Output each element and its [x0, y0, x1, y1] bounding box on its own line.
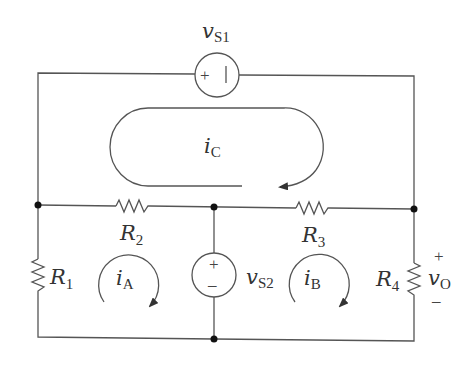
resistor-r3-label: R3 — [301, 223, 325, 250]
resistor-r1-icon — [32, 259, 44, 294]
node-top-center — [211, 204, 218, 211]
ib-label: iB — [304, 266, 321, 292]
ic-arrow-icon — [280, 170, 316, 187]
node-top-left — [35, 202, 42, 209]
circuit-diagram: + vS1 iC R2 R3 R1 iA — [0, 0, 476, 365]
mesh-current-ia: iA — [99, 255, 159, 306]
vo-label: vO — [428, 266, 451, 292]
resistor-r1-label: R1 — [49, 265, 73, 292]
mesh-current-ic: iC — [110, 108, 323, 187]
source-vs1-plus: + — [200, 66, 210, 85]
source-vs1-label: vS1 — [202, 19, 230, 45]
middle-branch — [38, 200, 414, 214]
resistor-r2-label: R2 — [119, 221, 143, 248]
source-vs1: + vS1 — [195, 19, 239, 97]
node-top-right — [411, 206, 418, 213]
source-vs2-plus: + — [209, 255, 219, 274]
output-voltage: + vO – — [428, 247, 451, 310]
top-branch — [38, 73, 414, 209]
node-bottom-center — [211, 336, 218, 343]
resistor-r4-label: R4 — [375, 267, 400, 294]
resistor-r2-icon — [116, 200, 150, 212]
ia-label: iA — [116, 266, 134, 292]
vo-plus: + — [434, 247, 444, 266]
source-vs2-label: vS2 — [246, 265, 274, 291]
vo-minus: – — [431, 291, 441, 310]
source-vs2-minus: – — [207, 275, 217, 294]
resistor-r3-icon — [296, 202, 330, 214]
center-branch: + – — [192, 207, 236, 339]
ic-label: iC — [204, 134, 221, 160]
resistor-r4-icon — [408, 263, 420, 298]
mesh-current-ib: iB — [289, 254, 349, 306]
